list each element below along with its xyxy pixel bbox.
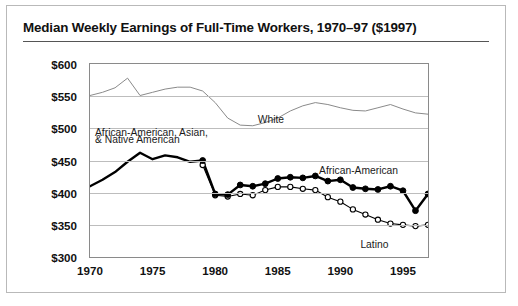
x-axis-tick-1985: 1985 xyxy=(265,264,291,277)
y-axis-tick-500: $500 xyxy=(5,122,77,135)
x-axis-tick-1995: 1995 xyxy=(390,264,416,277)
annotation-white: White xyxy=(258,114,284,126)
x-axis-tick-1970: 1970 xyxy=(77,264,103,277)
annotation-african-american: African-American xyxy=(319,165,398,177)
data-point xyxy=(275,184,280,189)
x-axis-tick-1990: 1990 xyxy=(327,264,353,277)
y-axis-tick-300: $300 xyxy=(5,251,77,264)
gridline-400 xyxy=(90,193,428,194)
chart-title-container: Median Weekly Earnings of Full-Time Work… xyxy=(23,20,489,42)
data-point xyxy=(300,186,305,191)
x-axis-tick-1980: 1980 xyxy=(202,264,228,277)
data-point xyxy=(350,185,356,191)
chart-card: Median Weekly Earnings of Full-Time Work… xyxy=(6,5,506,293)
data-point xyxy=(375,187,381,193)
gridline-350 xyxy=(90,225,428,226)
data-point xyxy=(275,176,281,182)
y-axis-tick-450: $450 xyxy=(5,154,77,167)
data-point xyxy=(237,182,243,188)
data-point xyxy=(262,181,268,187)
gridline-550 xyxy=(90,96,428,97)
y-axis-tick-350: $350 xyxy=(5,218,77,231)
data-point xyxy=(300,175,306,181)
data-point xyxy=(325,178,331,184)
y-axis-tick-550: $550 xyxy=(5,90,77,103)
annotation-native-american: & Native American xyxy=(95,134,180,146)
data-point xyxy=(287,174,293,180)
data-point xyxy=(288,184,293,189)
data-point xyxy=(312,173,318,179)
x-axis-tick-1975: 1975 xyxy=(140,264,166,277)
data-point xyxy=(337,177,343,183)
data-point xyxy=(363,186,369,192)
data-point xyxy=(375,217,380,222)
data-point xyxy=(338,199,343,204)
series-line-african-american-asian-native-american xyxy=(90,153,203,186)
plot-area xyxy=(89,63,429,258)
data-point xyxy=(350,207,355,212)
annotation-latino: Latino xyxy=(360,239,388,251)
data-point xyxy=(250,183,256,189)
data-point xyxy=(388,183,394,189)
data-point xyxy=(325,195,330,200)
gridline-450 xyxy=(90,161,428,162)
page-title: Median Weekly Earnings of Full-Time Work… xyxy=(23,20,489,35)
y-axis-tick-600: $600 xyxy=(5,58,77,71)
data-point xyxy=(413,208,419,214)
data-point xyxy=(363,212,368,217)
y-axis-tick-400: $400 xyxy=(5,186,77,199)
